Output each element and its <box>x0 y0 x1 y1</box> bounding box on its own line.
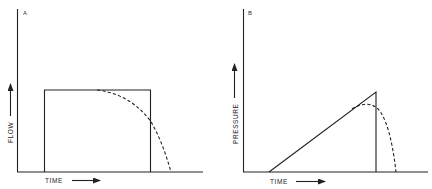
diagram-canvas: A FLOW TIME B PRESSURE TIME <box>0 0 432 189</box>
panel-b-label: B <box>248 10 252 16</box>
panel-b-x-label: TIME <box>270 178 288 185</box>
panel-a-dashed-curve <box>97 90 171 172</box>
panel-a-flow-rectangle <box>45 90 151 172</box>
panel-b-y-label: PRESSURE <box>232 103 239 144</box>
panel-a-y-label: FLOW <box>7 122 14 143</box>
panel-b-dashed-curve <box>352 104 396 172</box>
panel-a-x-label: TIME <box>45 177 63 184</box>
panel-b: B PRESSURE TIME <box>232 9 429 185</box>
panel-a: A FLOW TIME <box>7 9 204 184</box>
panel-a-label: A <box>23 10 27 16</box>
panel-b-pressure-triangle <box>269 92 376 172</box>
